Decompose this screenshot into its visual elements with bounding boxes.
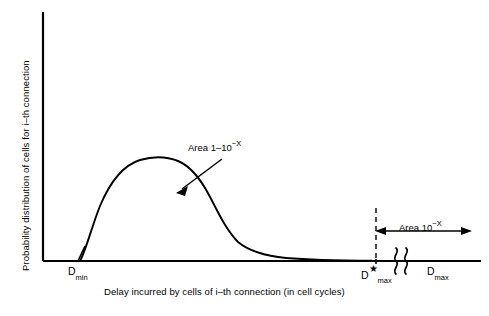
inner-area-exponent: −X	[232, 139, 241, 148]
dmax-subscript: max	[435, 273, 449, 282]
x-tick-label-dmax: Dmax	[427, 266, 449, 280]
y-axis-label: Probability distribution of cells for i–…	[21, 11, 31, 271]
dmin-subscript: min	[76, 273, 88, 282]
dmaxstar-subscript: max	[378, 276, 392, 285]
x-axis-label: Delay incurred by cells of i–th connecti…	[104, 287, 345, 297]
distribution-curve	[80, 157, 372, 261]
dmaxstar-star-icon: ★	[369, 263, 378, 274]
x-tick-label-dmin: Dmin	[68, 266, 88, 280]
dmax-base: D	[427, 265, 435, 277]
outer-area-exponent: −X	[432, 219, 441, 228]
outer-area-text: Area 10	[399, 222, 432, 233]
x-tick-label-dmax-star: D★max	[361, 266, 392, 283]
inner-area-annotation: Area 1–10−X	[188, 141, 241, 153]
outer-area-annotation: Area 10−X	[399, 221, 442, 233]
dmaxstar-base: D	[361, 269, 369, 281]
dmin-base: D	[68, 265, 76, 277]
inner-area-text: Area 1–10	[188, 142, 232, 153]
probability-distribution-figure: Probability distribution of cells for i–…	[0, 0, 489, 316]
